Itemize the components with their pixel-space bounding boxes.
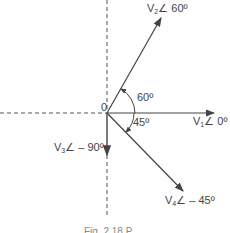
v4-label: V4∠ – 45º bbox=[165, 195, 215, 207]
v2-label: V2∠ 60º bbox=[147, 3, 188, 15]
v1-label: V1∠ 0º bbox=[193, 116, 227, 128]
phasor-diagram: 0 V2∠ 60º V1∠ 0º V3∠ – 90º V4∠ – 45º 60º… bbox=[0, 0, 230, 233]
v3-label: V3∠ – 90º bbox=[54, 142, 104, 154]
angle-60-label: 60º bbox=[137, 92, 153, 103]
origin-label: 0 bbox=[101, 102, 107, 113]
angle-45-label: 45º bbox=[133, 117, 149, 128]
arc-60 bbox=[121, 89, 135, 113]
figure-caption: Fig. 2.18 P bbox=[84, 226, 132, 233]
